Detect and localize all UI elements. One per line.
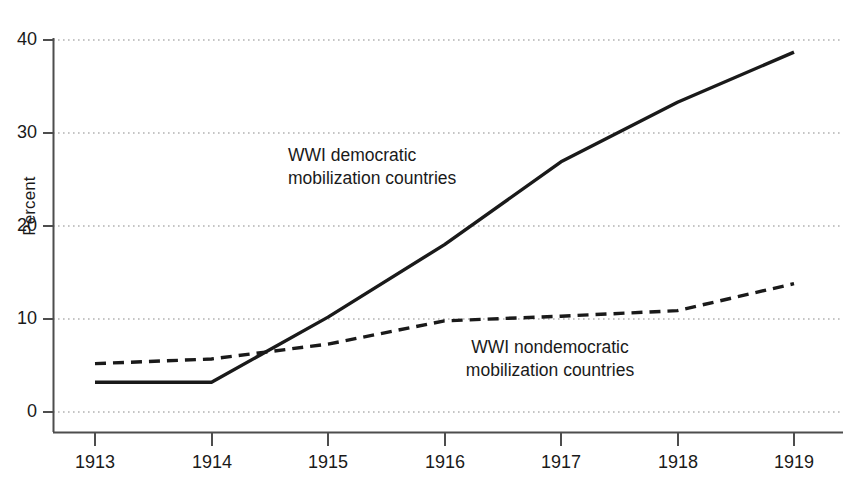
y-tick-label-30: 30 bbox=[0, 122, 37, 143]
x-tick-label-1913: 1913 bbox=[55, 452, 135, 473]
y-tick-label-20: 20 bbox=[0, 215, 37, 236]
y-axis-title: Percent bbox=[20, 146, 40, 266]
chart-figure: Percent 40 30 20 10 0 1913 1914 1915 191… bbox=[0, 0, 845, 491]
annotation-democratic-line2: mobilization countries bbox=[288, 167, 456, 190]
x-tick-label-1919: 1919 bbox=[754, 452, 834, 473]
x-tick-label-1914: 1914 bbox=[172, 452, 252, 473]
y-tick-label-10: 10 bbox=[0, 308, 37, 329]
annotation-nondemocratic: WWI nondemocratic mobilization countries bbox=[425, 336, 675, 382]
y-axis-ticks bbox=[43, 40, 53, 412]
y-tick-label-40: 40 bbox=[0, 29, 37, 50]
y-tick-label-0: 0 bbox=[0, 401, 37, 422]
line-chart-canvas bbox=[0, 0, 845, 491]
series-line-democratic bbox=[95, 52, 794, 382]
x-tick-label-1915: 1915 bbox=[288, 452, 368, 473]
x-tick-label-1916: 1916 bbox=[405, 452, 485, 473]
x-tick-label-1918: 1918 bbox=[638, 452, 718, 473]
annotation-nondemocratic-line1: WWI nondemocratic bbox=[425, 336, 675, 359]
x-tick-label-1917: 1917 bbox=[521, 452, 601, 473]
annotation-nondemocratic-line2: mobilization countries bbox=[425, 359, 675, 382]
annotation-democratic-line1: WWI democratic bbox=[288, 144, 456, 167]
x-axis-ticks bbox=[95, 432, 794, 446]
annotation-democratic: WWI democratic mobilization countries bbox=[288, 144, 456, 190]
